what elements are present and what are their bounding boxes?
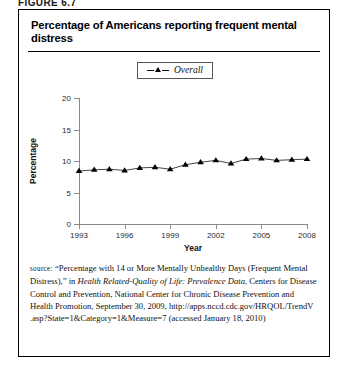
data-point-marker [137, 165, 144, 170]
figure-panel: Percentage of Americans reporting freque… [18, 9, 330, 357]
data-point-marker [258, 155, 265, 160]
data-point-marker [304, 156, 311, 161]
data-point-marker [243, 156, 250, 161]
series-overall [19, 54, 331, 262]
source-note: source: “Percentage with 14 or More Ment… [30, 262, 318, 324]
data-point-marker [152, 164, 159, 169]
series-line [79, 158, 307, 171]
title-divider [28, 51, 320, 52]
page-title: Percentage of Americans reporting freque… [31, 19, 317, 45]
source-prefix: source: [30, 265, 53, 273]
figure-label: FIGURE 6.7 [18, 0, 76, 8]
line-chart: Overall Percentage Year 05101520 1993199… [19, 54, 331, 262]
data-point-marker [91, 167, 98, 172]
source-italic-title: Health Related-Quality of Life: Prevalen… [78, 276, 245, 286]
data-point-marker [213, 157, 220, 162]
data-point-marker [106, 166, 113, 171]
data-point-marker [289, 157, 296, 162]
